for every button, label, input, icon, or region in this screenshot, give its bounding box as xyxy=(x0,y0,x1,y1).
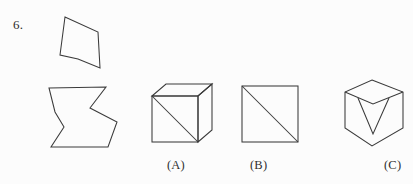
figures-canvas xyxy=(0,0,413,184)
chevron-polygon-figure xyxy=(49,87,117,147)
dart-quadrilateral-figure xyxy=(60,17,100,68)
option-c-figure[interactable] xyxy=(345,80,403,146)
option-c-label: (C) xyxy=(384,158,401,173)
option-a-figure[interactable] xyxy=(152,84,212,142)
worksheet-page: 6. ( xyxy=(0,0,413,184)
option-b-label: (B) xyxy=(250,158,267,173)
option-a-label: (A) xyxy=(167,158,185,173)
question-number: 6. xyxy=(13,17,23,33)
option-b-figure[interactable] xyxy=(242,86,298,142)
